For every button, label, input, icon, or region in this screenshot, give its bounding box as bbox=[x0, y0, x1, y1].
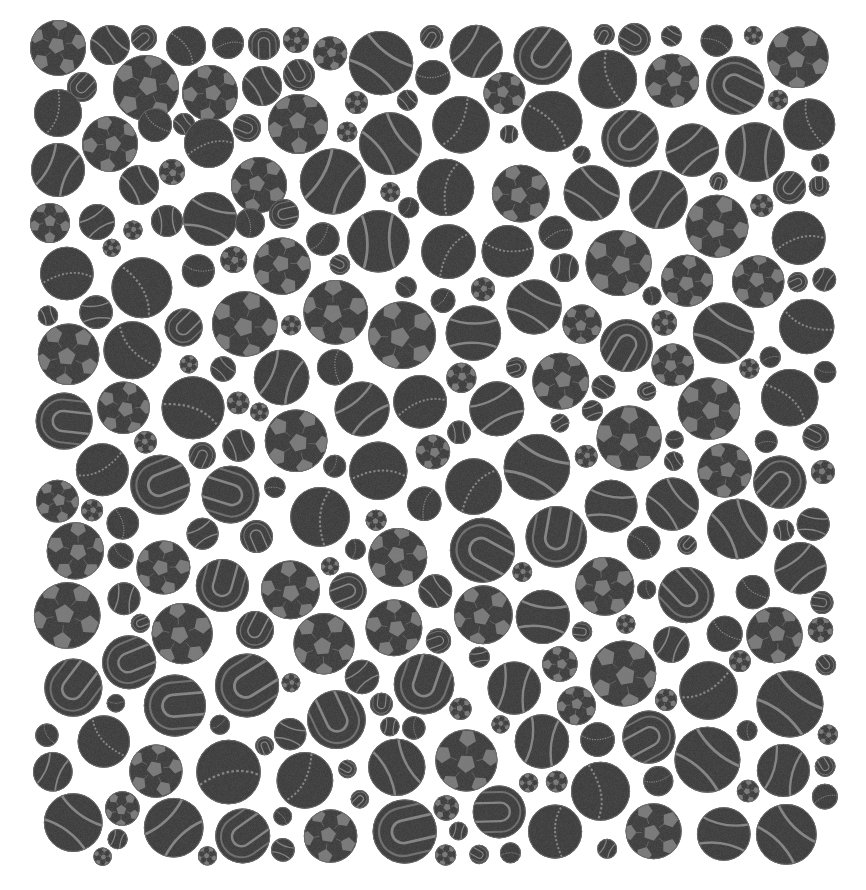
cricket-ball-icon bbox=[393, 375, 449, 436]
tennis-ball-icon bbox=[466, 381, 529, 436]
tennis-u-ball-icon bbox=[36, 393, 95, 450]
soccer-ball-icon bbox=[651, 684, 681, 715]
tennis-ball-icon bbox=[515, 712, 569, 770]
tennis-ball-icon bbox=[644, 474, 701, 533]
tennis-ball-icon bbox=[773, 519, 794, 542]
tennis-u-ball-icon bbox=[144, 674, 208, 736]
tennis-u-ball-icon bbox=[677, 533, 700, 556]
tennis-ball-icon bbox=[500, 125, 518, 144]
tennis-ball-icon bbox=[499, 434, 575, 500]
cricket-ball-icon bbox=[678, 658, 738, 720]
cricket-ball-icon bbox=[429, 287, 456, 313]
cricket-ball-icon bbox=[103, 318, 163, 379]
tennis-ball-icon bbox=[40, 792, 106, 853]
soccer-ball-icon bbox=[815, 721, 842, 749]
tennis-u-ball-icon bbox=[196, 465, 259, 523]
tennis-u-ball-icon bbox=[596, 317, 654, 378]
tennis-ball-icon bbox=[771, 541, 830, 595]
tennis-u-ball-icon bbox=[304, 684, 366, 751]
tennis-u-ball-icon bbox=[42, 651, 108, 719]
tennis-ball-icon bbox=[343, 659, 382, 695]
soccer-ball-icon bbox=[279, 312, 305, 338]
soccer-ball-icon bbox=[22, 570, 110, 660]
cricket-ball-icon bbox=[639, 285, 661, 306]
cricket-ball-icon bbox=[417, 159, 486, 223]
cricket-ball-icon bbox=[423, 90, 490, 154]
tennis-u-ball-icon bbox=[128, 24, 158, 54]
cricket-ball-icon bbox=[262, 477, 286, 503]
soccer-ball-icon bbox=[102, 238, 121, 258]
tennis-u-ball-icon bbox=[230, 113, 261, 142]
tennis-ball-icon bbox=[38, 304, 58, 327]
cricket-ball-icon bbox=[665, 427, 685, 449]
tennis-u-ball-icon bbox=[348, 789, 369, 810]
cricket-ball-icon bbox=[154, 376, 225, 451]
tennis-ball-icon bbox=[628, 166, 688, 233]
cricket-ball-icon bbox=[166, 26, 206, 66]
tennis-ball-icon bbox=[446, 305, 502, 360]
soccer-ball-icon bbox=[807, 616, 834, 642]
cricket-ball-icon bbox=[75, 440, 129, 496]
tennis-ball-icon bbox=[653, 624, 689, 665]
tennis-u-ball-icon bbox=[370, 692, 393, 716]
soccer-ball-icon bbox=[440, 573, 525, 658]
tennis-ball-icon bbox=[488, 660, 541, 717]
tennis-ball-icon bbox=[108, 828, 128, 851]
soccer-ball-icon bbox=[119, 216, 147, 244]
cricket-ball-icon bbox=[302, 219, 340, 256]
tennis-u-ball-icon bbox=[163, 304, 207, 348]
tennis-ball-icon bbox=[449, 21, 504, 81]
soccer-ball-icon bbox=[176, 351, 202, 377]
tennis-ball-icon bbox=[695, 807, 753, 861]
cricket-ball-icon bbox=[759, 347, 781, 371]
tennis-u-ball-icon bbox=[785, 272, 808, 293]
soccer-ball-icon bbox=[637, 43, 710, 118]
tennis-ball-icon bbox=[119, 162, 159, 208]
tennis-ball-icon bbox=[590, 375, 617, 399]
tennis-u-ball-icon bbox=[599, 103, 666, 170]
cricket-ball-icon bbox=[415, 53, 453, 95]
soccer-ball-icon bbox=[767, 88, 789, 110]
soccer-ball-icon bbox=[90, 844, 115, 870]
tennis-u-ball-icon bbox=[800, 422, 830, 450]
tennis-ball-icon bbox=[108, 581, 141, 616]
tennis-u-ball-icon bbox=[813, 754, 836, 778]
cricket-ball-icon bbox=[814, 356, 839, 383]
soccer-ball-icon bbox=[612, 611, 639, 638]
soccer-ball-icon bbox=[307, 29, 354, 77]
cricket-ball-icon bbox=[267, 746, 333, 809]
tennis-ball-icon bbox=[31, 139, 85, 201]
tennis-ball-icon bbox=[358, 108, 423, 179]
soccer-ball-icon bbox=[656, 252, 717, 311]
tennis-ball-icon bbox=[689, 302, 759, 363]
tennis-ball-icon bbox=[449, 821, 468, 841]
cricket-ball-icon bbox=[402, 716, 430, 742]
tennis-u-ball-icon bbox=[213, 648, 287, 719]
soccer-ball-icon bbox=[81, 113, 141, 175]
tennis-ball-icon bbox=[300, 144, 366, 219]
tennis-ball-icon bbox=[664, 450, 683, 472]
tennis-ball-icon bbox=[514, 590, 571, 644]
tennis-ball-icon bbox=[549, 414, 570, 433]
cricket-ball-icon bbox=[779, 288, 841, 354]
tennis-ball-icon bbox=[380, 716, 399, 737]
soccer-ball-icon bbox=[195, 843, 219, 868]
soccer-ball-icon bbox=[216, 241, 253, 279]
cricket-ball-icon bbox=[211, 27, 245, 64]
cricket-ball-icon bbox=[107, 690, 127, 712]
cricket-ball-icon bbox=[482, 214, 540, 277]
soccer-ball-icon bbox=[378, 180, 402, 203]
tennis-u-ball-icon bbox=[248, 28, 280, 60]
soccer-ball-icon bbox=[224, 388, 253, 418]
tennis-u-ball-icon bbox=[504, 357, 526, 378]
cricket-ball-icon bbox=[697, 25, 733, 63]
tennis-ball-icon bbox=[141, 795, 207, 860]
tennis-u-ball-icon bbox=[336, 758, 357, 778]
tennis-u-ball-icon bbox=[592, 23, 615, 47]
soccer-ball-icon bbox=[29, 202, 72, 243]
tennis-u-ball-icon bbox=[327, 253, 350, 275]
soccer-ball-icon bbox=[695, 438, 757, 502]
tennis-u-ball-icon bbox=[187, 442, 215, 472]
soccer-ball-icon bbox=[430, 840, 460, 870]
soccer-ball-icon bbox=[750, 192, 775, 218]
